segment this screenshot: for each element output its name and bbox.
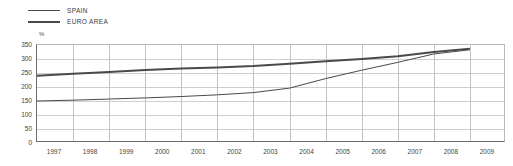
x-tick-label-2008: 2008 [433,148,469,156]
x-tick-label-1997: 1997 [36,148,72,156]
x-tick-label-2000: 2000 [144,148,180,156]
chart-legend: SPAIN EURO AREA [28,5,188,27]
x-tick-label-2005: 2005 [325,148,361,156]
legend-line-swatch-spain [28,5,60,16]
series-lines [37,45,506,143]
chart-figure: SPAIN EURO AREA % 050100150200250300350 … [0,0,513,166]
x-tick-label-2001: 2001 [180,148,216,156]
y-tick-label-350: 350 [21,41,32,48]
series-line-spain [37,50,470,101]
y-axis-tick-labels: 050100150200250300350 [0,0,32,166]
legend-label-euro-area: EURO AREA [67,17,108,26]
x-tick-label-1999: 1999 [108,148,144,156]
legend-label-spain: SPAIN [67,6,88,15]
x-tick-label-2007: 2007 [397,148,433,156]
y-tick-label-100: 100 [21,111,32,118]
x-axis-tick-labels: 1997199819992000200120022003200420052006… [36,148,505,160]
x-tick-label-1998: 1998 [72,148,108,156]
x-tick-label-2009: 2009 [469,148,505,156]
legend-item-euro-area: EURO AREA [28,16,188,27]
y-tick-label-200: 200 [21,83,32,90]
plot-area [36,44,505,142]
x-tick-label-2002: 2002 [216,148,252,156]
x-tick-label-2003: 2003 [252,148,288,156]
legend-line-swatch-euro-area [28,16,60,27]
y-tick-label-50: 50 [25,125,32,132]
legend-item-spain: SPAIN [28,5,188,16]
y-axis-unit-label: % [39,31,44,37]
y-tick-label-250: 250 [21,69,32,76]
x-tick-label-2004: 2004 [289,148,325,156]
y-tick-label-0: 0 [28,139,32,146]
y-tick-label-300: 300 [21,55,32,62]
series-line-euro-area [37,49,470,76]
x-tick-label-2006: 2006 [361,148,397,156]
y-tick-label-150: 150 [21,97,32,104]
